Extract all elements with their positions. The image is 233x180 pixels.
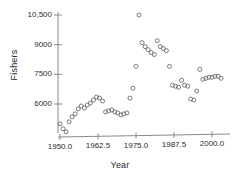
data-point <box>73 112 77 116</box>
x-axis-tick-label: 1987.5 <box>154 140 194 149</box>
data-point <box>164 49 168 53</box>
data-point <box>180 78 184 82</box>
x-axis-line <box>58 134 230 137</box>
x-axis-tick-label: 1962.5 <box>78 141 118 150</box>
data-point <box>128 96 132 100</box>
data-point <box>155 39 159 43</box>
data-point <box>67 120 71 124</box>
data-point <box>64 130 68 134</box>
data-point <box>140 41 144 45</box>
data-point <box>101 99 105 103</box>
data-point <box>152 53 156 57</box>
y-axis-tick-label: 7500 <box>6 69 52 78</box>
data-point <box>137 13 141 17</box>
plot-area <box>0 0 233 180</box>
chart-canvas <box>0 0 233 180</box>
data-point <box>131 86 135 90</box>
x-axis-tick-label: 2000.0 <box>192 139 232 148</box>
data-point <box>198 67 202 71</box>
data-series-fishers <box>58 13 223 134</box>
data-point <box>219 76 223 80</box>
data-point <box>195 89 199 93</box>
y-axis-tick-label: 6000 <box>6 99 52 108</box>
x-axis-tick-label: 1975.0 <box>116 141 156 150</box>
y-axis-tick-label: 9000 <box>6 40 52 49</box>
data-point <box>58 122 62 126</box>
scatter-chart-figure: Fishers Year 60007500900010,5001950.0196… <box>0 0 233 180</box>
x-axis-tick-label: 1950.0 <box>40 142 80 151</box>
y-axis-tick-label: 10,500 <box>6 10 52 19</box>
data-point <box>167 64 171 68</box>
data-point <box>134 64 138 68</box>
